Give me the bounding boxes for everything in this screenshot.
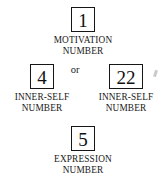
motivation-number-box: 1 (71, 7, 95, 32)
motivation-number-label: MOTIVATION NUMBER (41, 35, 125, 56)
node-expression: 5 EXPRESSION NUMBER (41, 126, 125, 175)
numerology-diagram: 1 MOTIVATION NUMBER or 4 INNER-SELF NUMB… (0, 0, 167, 181)
expression-number-label: EXPRESSION NUMBER (41, 154, 125, 175)
inner-self-left-number-label: INNER-SELF NUMBER (0, 92, 84, 113)
inner-self-right-number-box: 22 (109, 64, 143, 89)
node-inner-self-left: 4 INNER-SELF NUMBER (0, 64, 84, 113)
inner-self-left-number-box: 4 (30, 64, 54, 89)
inner-self-right-number-label: INNER-SELF NUMBER (84, 92, 167, 113)
expression-number-box: 5 (71, 126, 95, 151)
node-motivation: 1 MOTIVATION NUMBER (41, 7, 125, 56)
